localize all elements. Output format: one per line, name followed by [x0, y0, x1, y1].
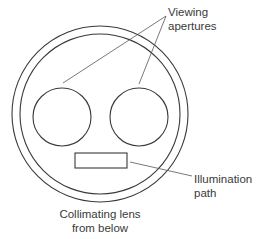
viewing-apertures-label: Viewing apertures	[168, 5, 217, 33]
illumination-path-label: Illumination path	[194, 172, 252, 200]
left-aperture	[33, 88, 91, 146]
outer-ring	[12, 26, 188, 202]
leader-line-right-aperture	[139, 16, 166, 84]
label-line: Illumination	[194, 172, 252, 186]
right-aperture	[110, 88, 168, 146]
leader-line-illumination	[130, 162, 192, 176]
leader-line-left-aperture	[63, 16, 166, 83]
label-line: path	[194, 186, 252, 200]
caption-line: from below	[40, 221, 160, 235]
inner-ring	[20, 34, 180, 194]
illumination-slot	[75, 153, 127, 168]
caption: Collimating lens from below	[40, 207, 160, 235]
lens-diagram	[0, 0, 260, 239]
label-line: apertures	[168, 19, 217, 33]
caption-line: Collimating lens	[40, 207, 160, 221]
label-line: Viewing	[168, 5, 217, 19]
